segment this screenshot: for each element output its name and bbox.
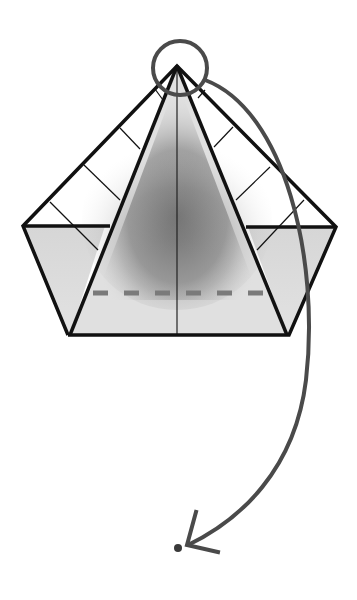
origami-diagram <box>0 0 357 600</box>
target-dot <box>174 544 182 552</box>
diagram-canvas <box>0 0 357 600</box>
